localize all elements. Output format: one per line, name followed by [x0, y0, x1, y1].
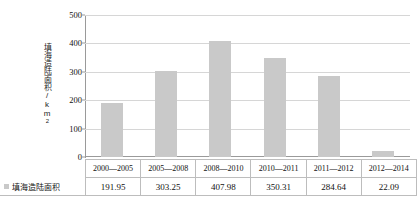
- plot-panel: [85, 15, 410, 157]
- bar-cell: [85, 15, 139, 157]
- y-axis-title-text: 填海造陆面积/km: [43, 43, 52, 118]
- bar-cell: [193, 15, 247, 157]
- bar-cell: [139, 15, 193, 157]
- legend-entry: 填海造陆面积: [0, 178, 86, 196]
- table-value-cell: 22.09: [361, 178, 416, 196]
- y-tick-mark: [81, 43, 85, 44]
- table-header-cell: 2005—2008: [141, 160, 196, 178]
- bar-cell: [248, 15, 302, 157]
- bar-cell: [302, 15, 356, 157]
- table-value-cell: 303.25: [141, 178, 196, 196]
- table-value-cell: 191.95: [86, 178, 141, 196]
- legend-swatch-icon: [4, 184, 9, 189]
- plot-area-wrapper: 填海造陆面积/km2 0100200300400500: [0, 0, 413, 160]
- y-axis-title: 填海造陆面积/km2: [40, 18, 54, 148]
- table-header-cell: 2000—2005: [86, 160, 141, 178]
- table-value-cell: 407.98: [196, 178, 251, 196]
- y-tick-mark: [81, 157, 85, 158]
- bar: [155, 71, 177, 157]
- bar-series: [85, 15, 410, 157]
- y-axis-title-superscript: 2: [43, 118, 52, 124]
- table-value-cell: 284.64: [306, 178, 361, 196]
- table-header-cell: 2010—2011: [251, 160, 306, 178]
- y-tick-mark: [81, 71, 85, 72]
- y-tick-mark: [81, 100, 85, 101]
- table-header-row: 2000—20052005—20082008—20102010—20112011…: [0, 160, 416, 178]
- table-header-cell: 2012—2014: [361, 160, 416, 178]
- legend-label: 填海造陆面积: [12, 183, 60, 192]
- y-tick-mark: [81, 15, 85, 16]
- y-tick-mark: [81, 128, 85, 129]
- bar: [264, 58, 286, 157]
- bar: [318, 76, 340, 157]
- table-value-cell: 350.31: [251, 178, 306, 196]
- bar: [372, 151, 394, 157]
- bar: [209, 41, 231, 157]
- table-header-cell: 2008—2010: [196, 160, 251, 178]
- bar: [101, 103, 123, 158]
- y-axis-tick-labels: 0100200300400500: [58, 0, 82, 160]
- table-header-cell: 2011—2012: [306, 160, 361, 178]
- data-table: 2000—20052005—20082008—20102010—20112011…: [0, 159, 417, 196]
- bar-cell: [356, 15, 410, 157]
- table-value-row: 填海造陆面积 191.95303.25407.98350.31284.6422.…: [0, 178, 416, 196]
- table-corner-cell: [0, 160, 86, 178]
